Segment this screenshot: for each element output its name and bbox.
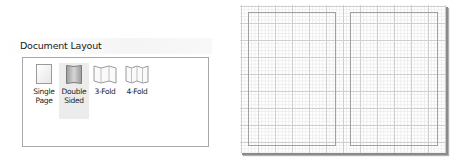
layout-option-label: 4-Fold xyxy=(126,87,147,96)
document-layout-title: Document Layout xyxy=(20,40,102,51)
document-layout-options: Single Page Double Sided 3-Fold 4-Fold xyxy=(22,57,209,147)
double-sided-icon xyxy=(64,64,84,84)
three-fold-icon xyxy=(93,64,117,84)
layout-preview-canvas xyxy=(240,5,446,153)
preview-page-right xyxy=(350,12,438,146)
layout-option-double-sided[interactable]: Double Sided xyxy=(59,63,89,119)
preview-page-left xyxy=(248,12,336,146)
layout-option-4-fold[interactable]: 4-Fold xyxy=(122,63,152,119)
four-fold-icon xyxy=(125,64,149,84)
layout-option-3-fold[interactable]: 3-Fold xyxy=(90,63,120,119)
single-page-icon xyxy=(34,64,54,84)
layout-option-label: 3-Fold xyxy=(94,87,115,96)
layout-option-label: Double Sided xyxy=(62,87,87,105)
layout-option-label: Single Page xyxy=(33,87,54,105)
layout-option-single-page[interactable]: Single Page xyxy=(30,63,58,119)
